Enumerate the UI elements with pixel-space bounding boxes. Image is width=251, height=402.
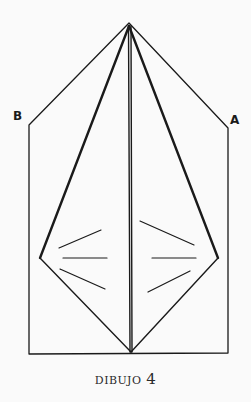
right-hatch-line-1 — [140, 221, 194, 245]
center-fold-line-b — [131, 26, 132, 352]
caption-word: DIBUJO — [95, 374, 142, 387]
origami-diagram — [0, 0, 251, 402]
caption-number: 4 — [146, 370, 156, 388]
center-fold-line-a — [129, 26, 131, 352]
corner-label-b: B — [13, 110, 22, 122]
kite-edge-lower-right — [131, 258, 218, 352]
figure-caption: DIBUJO 4 — [0, 370, 251, 388]
left-hatch-line-1 — [59, 230, 101, 248]
right-hatch-line-3 — [148, 271, 190, 292]
kite-edge-upper-left — [40, 26, 129, 258]
corner-label-a: A — [230, 114, 239, 126]
kite-edge-upper-right — [129, 26, 218, 258]
kite-edge-lower-left — [40, 258, 131, 352]
